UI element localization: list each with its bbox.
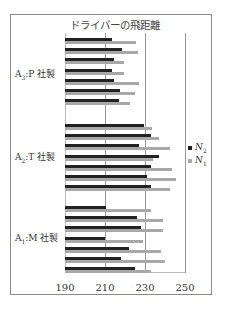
bar-n1 bbox=[65, 147, 170, 150]
gridline-250 bbox=[185, 33, 186, 273]
bar-n2 bbox=[65, 165, 151, 168]
group-label-t: A2:T 社製 bbox=[15, 150, 55, 164]
bar-n2 bbox=[65, 226, 141, 229]
plot-area bbox=[65, 33, 185, 273]
bar-n2 bbox=[65, 89, 120, 92]
bar-n2 bbox=[65, 155, 159, 158]
bar-n1 bbox=[65, 92, 135, 95]
bar-n1 bbox=[65, 41, 136, 44]
bar-n2 bbox=[65, 134, 151, 137]
gridline-230 bbox=[145, 33, 146, 273]
legend-swatch-n2 bbox=[188, 146, 192, 150]
bar-n2 bbox=[65, 58, 114, 61]
bar-n2 bbox=[65, 257, 121, 260]
bar-n1 bbox=[65, 260, 165, 263]
bar-n2 bbox=[65, 48, 122, 51]
bar-n1 bbox=[65, 240, 143, 243]
bar-n1 bbox=[65, 61, 124, 64]
legend-swatch-n1 bbox=[188, 159, 192, 163]
bar-n1 bbox=[65, 270, 151, 273]
bar-n1 bbox=[65, 137, 159, 140]
bar-n2 bbox=[65, 144, 139, 147]
bar-n1 bbox=[65, 219, 163, 222]
group-label-m: A1:M 社製 bbox=[15, 231, 58, 245]
legend-item-n1: N1 bbox=[188, 155, 207, 167]
bar-n1 bbox=[65, 188, 170, 191]
bar-n2 bbox=[65, 206, 106, 209]
bar-n1 bbox=[65, 209, 151, 212]
bar-n2 bbox=[65, 99, 119, 102]
bar-n1 bbox=[65, 158, 153, 161]
x-tick-210: 210 bbox=[95, 282, 114, 293]
x-tick-190: 190 bbox=[55, 282, 74, 293]
bar-n1 bbox=[65, 178, 176, 181]
bar-n2 bbox=[65, 124, 144, 127]
x-tick-250: 250 bbox=[175, 282, 194, 293]
bar-n2 bbox=[65, 267, 135, 270]
bar-n1 bbox=[65, 250, 161, 253]
x-tick-230: 230 bbox=[135, 282, 154, 293]
bar-n2 bbox=[65, 247, 129, 250]
bar-n1 bbox=[65, 168, 172, 171]
bar-n2 bbox=[65, 175, 147, 178]
bar-n1 bbox=[65, 229, 163, 232]
bar-n2 bbox=[65, 69, 112, 72]
bar-n1 bbox=[65, 51, 138, 54]
bar-n1 bbox=[65, 82, 139, 85]
group-label-p: A3:P 社製 bbox=[15, 67, 55, 81]
bar-n1 bbox=[65, 127, 152, 130]
bar-n2 bbox=[65, 185, 151, 188]
bar-n1 bbox=[65, 102, 130, 105]
bar-n2 bbox=[65, 79, 114, 82]
chart-title: ドライバーの飛距離 bbox=[0, 17, 229, 32]
bar-n2 bbox=[65, 237, 105, 240]
bar-n2 bbox=[65, 216, 137, 219]
bar-n1 bbox=[65, 72, 124, 75]
bar-n2 bbox=[65, 38, 112, 41]
legend-item-n2: N2 bbox=[188, 142, 207, 154]
